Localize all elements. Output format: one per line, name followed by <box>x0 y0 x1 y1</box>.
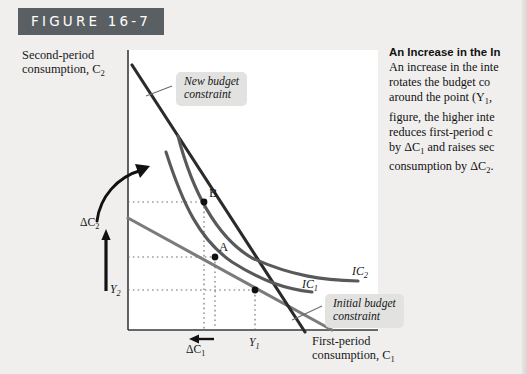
caption-title: An Increase in the In <box>389 46 527 59</box>
ic2-label-sub: 2 <box>364 271 368 280</box>
x-axis-label-line2: consumption, C <box>312 348 390 362</box>
caption-body: An increase in the inte rotates the budg… <box>389 60 527 179</box>
new-budget-callout-line2: constraint <box>184 88 231 101</box>
point-b-dot <box>201 199 208 206</box>
ic1-label: IC1 <box>302 277 318 293</box>
delta-c2-arrow-head-up <box>101 229 110 240</box>
delta-c2-sub: 2 <box>95 222 99 231</box>
y-tick-label-y2: Y2 <box>110 283 121 298</box>
delta-c2-text: ΔC <box>80 216 95 229</box>
delta-c1-text: ΔC <box>186 343 201 356</box>
caption-line-7: consumption by ΔC <box>389 159 486 173</box>
ic1-label-text: IC <box>302 277 314 291</box>
figure-caption: An Increase in the In An increase in the… <box>389 46 527 179</box>
ic1-label-sub: 1 <box>314 284 318 293</box>
new-budget-callout-line1: New budget <box>184 75 239 88</box>
delta-c1-label: ΔC1 <box>186 343 205 358</box>
caption-line-6: by ΔC <box>389 140 420 154</box>
y-axis-label: Second-period consumption, C2 <box>22 48 105 81</box>
y-axis-label-line2: consumption, C <box>22 62 100 76</box>
caption-line-6-rest: and raises sec <box>424 140 494 154</box>
caption-line-3: around the point (Y <box>389 90 485 104</box>
initial-budget-constraint-callout: Initial budget constraint <box>325 294 404 328</box>
y-tick-label-sub: 2 <box>116 289 120 298</box>
point-a-dot <box>212 254 219 261</box>
initial-budget-callout-line1: Initial budget <box>333 297 396 310</box>
new-budget-constraint-callout: New budget constraint <box>176 72 247 106</box>
x-axis-label-line1: First-period <box>312 334 371 348</box>
point-b-label: B <box>209 186 217 201</box>
x-axis-label-sub: 1 <box>390 355 394 365</box>
caption-line-5: reduces first-period c <box>389 125 493 139</box>
x-axis-label: First-period consumption, C1 <box>312 334 395 367</box>
y-axis-label-line1: Second-period <box>22 48 94 62</box>
caption-line-3-comma: , <box>489 90 492 104</box>
caption-line-4: figure, the higher inte <box>389 110 495 124</box>
ic2-label: IC2 <box>352 264 368 280</box>
caption-line-7-end: . <box>490 159 493 173</box>
x-tick-label-y1: Y1 <box>249 336 260 351</box>
x-tick-label-sub: 1 <box>255 342 259 351</box>
delta-c1-sub: 1 <box>201 349 205 358</box>
point-pivot-dot <box>252 287 259 294</box>
point-a-label: A <box>219 240 228 255</box>
y-axis-label-sub: 2 <box>100 69 104 79</box>
delta-c2-label: ΔC2 <box>80 216 99 231</box>
initial-budget-callout-line2: constraint <box>333 310 380 323</box>
caption-line-2: rotates the budget co <box>389 75 490 89</box>
figure-page: FIGURE 16-7 <box>0 0 527 374</box>
page-edge-shading <box>522 0 527 374</box>
caption-line-1: An increase in the inte <box>389 60 499 74</box>
ic2-label-text: IC <box>352 264 364 278</box>
